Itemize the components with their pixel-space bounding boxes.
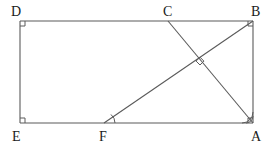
right-angle-E (20, 118, 25, 123)
vertex-label-C: C (163, 5, 172, 19)
right-angle-D (20, 21, 25, 26)
vertex-label-E: E (12, 130, 21, 144)
segment-diagonal-F-B (104, 21, 253, 123)
vertex-label-F: F (99, 130, 107, 144)
right-angle-markers (20, 21, 253, 123)
rectangle-outline (20, 21, 253, 123)
interior-segments (104, 21, 253, 123)
segment-diagonal-C-A (168, 21, 253, 123)
vertex-label-D: D (11, 5, 21, 19)
geometry-canvas (0, 0, 274, 149)
right-angle-intersection (196, 57, 204, 65)
vertex-label-A: A (251, 130, 261, 144)
geometry-figure: D C B E F A (0, 0, 274, 149)
vertex-label-B: B (251, 5, 260, 19)
